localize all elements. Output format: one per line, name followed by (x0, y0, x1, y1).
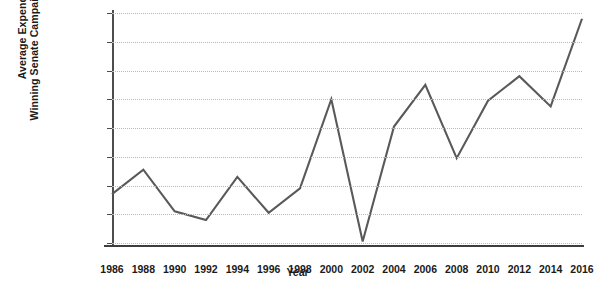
gridline-horizontal (112, 13, 582, 14)
y-axis-tick-mark (107, 243, 112, 244)
x-axis-title: Year (0, 266, 595, 278)
y-axis-title: Average Expenditures on Winning Senate C… (13, 0, 43, 138)
y-axis-tick-mark (107, 42, 112, 43)
y-axis-tick-mark (107, 128, 112, 129)
gridline-horizontal (112, 157, 582, 158)
chart-container: Average Expenditures on Winning Senate C… (0, 0, 595, 284)
x-axis-line (104, 245, 584, 247)
gridline-horizontal (112, 214, 582, 215)
y-axis-title-line-2: Winning Senate Campaigns(2014 Dollars) (28, 0, 41, 120)
y-axis-tick-mark (107, 214, 112, 215)
y-axis-tick-mark (107, 157, 112, 158)
y-axis-tick-mark (107, 186, 112, 187)
y-axis-tick-mark (107, 99, 112, 100)
gridline-horizontal (112, 99, 582, 100)
plot-area: $5,000,000$6,000,000$7,000,000$8,000,000… (112, 13, 582, 243)
y-axis-title-line-1: Average Expenditures on (16, 0, 29, 79)
y-axis-tick-mark (107, 13, 112, 14)
gridline-horizontal (112, 71, 582, 72)
gridline-horizontal (112, 128, 582, 129)
gridline-horizontal (112, 42, 582, 43)
gridline-horizontal (112, 243, 582, 244)
y-axis-tick-mark (107, 71, 112, 72)
gridline-horizontal (112, 186, 582, 187)
